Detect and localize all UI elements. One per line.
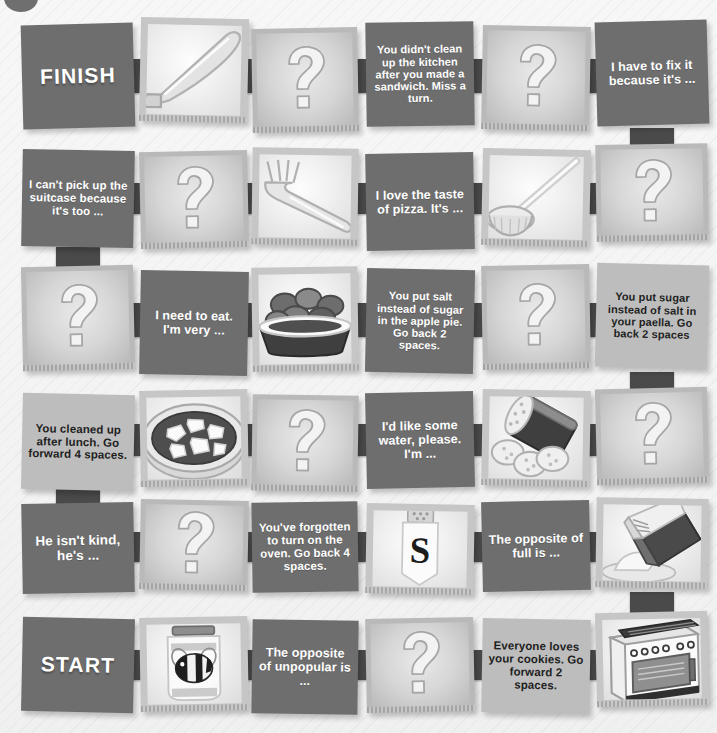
question-mark-field bbox=[486, 30, 586, 126]
tile-picture-oven[interactable] bbox=[595, 611, 709, 708]
question-mark-icon bbox=[621, 395, 683, 476]
bowl-of-fruit-icon bbox=[258, 273, 351, 364]
board-row-6: START The opposite of unpopular is ... E… bbox=[0, 616, 717, 718]
tile-text: I can't pick up the suitcase because it'… bbox=[28, 178, 129, 218]
tile-question-r4b[interactable] bbox=[595, 387, 709, 486]
tile-fringe bbox=[367, 705, 475, 713]
salt-shaker-icon: S bbox=[372, 510, 467, 588]
tile-text: I have to fix it because it's ... bbox=[602, 58, 703, 89]
tile-question-r5[interactable] bbox=[139, 499, 249, 591]
question-mark-field bbox=[370, 622, 470, 708]
question-mark-icon bbox=[274, 403, 335, 484]
knife-icon bbox=[146, 24, 242, 116]
tile-prompt-pizza[interactable]: I love the taste of pizza. It's ... bbox=[365, 152, 475, 251]
tile-question-r6[interactable] bbox=[365, 617, 475, 713]
tile-prompt-water[interactable]: I'd like some water, please. I'm ... bbox=[365, 391, 475, 489]
tile-picture-biscuit-tin[interactable] bbox=[481, 389, 591, 487]
tile-fringe bbox=[481, 479, 589, 487]
tile-fringe bbox=[365, 587, 473, 595]
tile-picture-ladle[interactable] bbox=[481, 148, 591, 247]
question-mark-field bbox=[256, 399, 353, 486]
tile-picture-knife[interactable] bbox=[139, 17, 249, 123]
board-row-2: I can't pick up the suitcase because it'… bbox=[0, 148, 717, 253]
tile-go-forward-cookies[interactable]: Everyone loves your cookies. Go forward … bbox=[481, 618, 591, 714]
tile-text: You put sugar instead of salt in your pa… bbox=[601, 290, 702, 342]
board-row-1: FINISH You didn't clean up the kitchen a… bbox=[0, 22, 717, 134]
picture-field bbox=[258, 273, 351, 364]
biscuit-tin-icon bbox=[488, 396, 583, 480]
question-mark-field bbox=[486, 269, 586, 365]
tile-fringe bbox=[251, 484, 357, 492]
question-mark-icon bbox=[389, 624, 451, 705]
tile-question-r4[interactable] bbox=[251, 394, 358, 492]
tile-prompt-need-to-eat[interactable]: I need to eat. I'm very ... bbox=[139, 270, 249, 376]
oven-icon bbox=[602, 618, 702, 700]
question-mark-icon bbox=[621, 152, 682, 233]
tile-fringe bbox=[597, 699, 709, 708]
tile-go-back-oven[interactable]: You've forgotten to turn on the oven. Go… bbox=[251, 501, 358, 592]
tile-question-r2[interactable] bbox=[139, 150, 249, 249]
tile-text: The opposite of full is ... bbox=[488, 531, 585, 561]
picture-field bbox=[488, 155, 584, 240]
tile-fringe bbox=[139, 115, 247, 123]
tile-go-back-apple-pie[interactable]: You put salt instead of sugar in the app… bbox=[365, 268, 475, 374]
tile-fringe bbox=[141, 241, 249, 249]
question-mark-icon bbox=[47, 277, 109, 358]
tile-fringe bbox=[251, 238, 357, 245]
ladle-icon bbox=[488, 155, 584, 240]
tile-fringe bbox=[141, 704, 249, 712]
board-row-3: I need to eat. I'm very ... You put salt… bbox=[0, 266, 717, 378]
tile-question-r3b[interactable] bbox=[481, 264, 591, 370]
question-mark-field bbox=[600, 392, 704, 480]
tile-prompt-isnt-kind[interactable]: He isn't kind, he's ... bbox=[21, 502, 135, 594]
honey-jar-bee-icon bbox=[147, 623, 241, 705]
tile-go-back-paella[interactable]: You put sugar instead of salt in your pa… bbox=[595, 263, 710, 370]
tile-question-r3[interactable] bbox=[21, 265, 135, 371]
tile-miss-a-turn-kitchen[interactable]: You didn't clean up the kitchen after yo… bbox=[365, 21, 474, 126]
question-mark-icon bbox=[274, 39, 335, 120]
svg-text:S: S bbox=[409, 529, 430, 570]
picture-field bbox=[488, 396, 583, 480]
question-mark-icon bbox=[163, 504, 225, 585]
picture-field bbox=[146, 623, 241, 705]
tile-text: I need to eat. I'm very ... bbox=[146, 308, 242, 338]
tile-picture-salt-shaker[interactable]: S bbox=[365, 503, 475, 595]
tile-fringe bbox=[481, 123, 589, 131]
tile-fringe bbox=[23, 363, 135, 371]
question-mark-icon bbox=[163, 159, 225, 240]
tile-fringe bbox=[141, 479, 249, 487]
board-row-4: You cleaned up after lunch. Go forward 4… bbox=[0, 390, 717, 494]
tile-prompt-fix-it[interactable]: I have to fix it because it's ... bbox=[595, 19, 710, 126]
tile-go-forward-cleaned-up[interactable]: You cleaned up after lunch. Go forward 4… bbox=[21, 393, 135, 491]
tile-picture-honey-jar[interactable] bbox=[139, 616, 249, 712]
tile-picture-flour-bag[interactable] bbox=[595, 497, 708, 589]
tile-picture-fork[interactable] bbox=[251, 147, 358, 245]
tile-prompt-suitcase[interactable]: I can't pick up the suitcase because it'… bbox=[21, 149, 135, 248]
tile-text: You didn't clean up the kitchen after yo… bbox=[372, 43, 469, 106]
question-mark-icon bbox=[505, 276, 566, 357]
tile-question-r2b[interactable] bbox=[595, 143, 709, 242]
picture-field bbox=[146, 396, 241, 480]
tile-question-r1b[interactable] bbox=[481, 25, 591, 131]
tile-heading: FINISH bbox=[40, 63, 117, 89]
tile-text: I'd like some water, please. I'm ... bbox=[372, 418, 469, 462]
board-game-path: FINISH You didn't clean up the kitchen a… bbox=[0, 0, 717, 733]
tile-fringe bbox=[597, 234, 709, 242]
tile-picture-bowl-of-fruit[interactable] bbox=[251, 266, 358, 371]
tile-fringe bbox=[139, 583, 247, 591]
question-mark-field bbox=[256, 32, 354, 128]
tile-fringe bbox=[595, 581, 707, 589]
tile-fringe bbox=[597, 477, 709, 486]
tile-text: I love the taste of pizza. It's ... bbox=[372, 187, 468, 217]
tile-prompt-opposite-full[interactable]: The opposite of full is ... bbox=[481, 500, 591, 592]
tile-prompt-opposite-unpopular[interactable]: The opposite of unpopular is ... bbox=[251, 619, 358, 714]
tile-start[interactable]: START bbox=[21, 617, 135, 713]
tile-picture-pizza[interactable] bbox=[139, 389, 249, 487]
fork-icon bbox=[258, 154, 351, 238]
tile-fringe bbox=[481, 239, 589, 247]
tile-fringe bbox=[483, 362, 591, 370]
pizza-icon bbox=[146, 396, 241, 480]
tile-finish[interactable]: FINISH bbox=[21, 23, 136, 130]
question-mark-field bbox=[144, 504, 244, 586]
tile-question-r1[interactable] bbox=[251, 27, 359, 133]
